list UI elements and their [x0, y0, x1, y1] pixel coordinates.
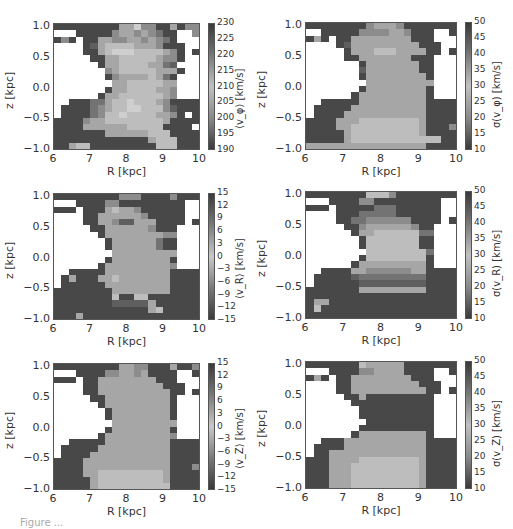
heatmap-panel-vphi_sigma — [305, 22, 457, 150]
colorbar-tick-label: 30 — [474, 250, 485, 259]
heatmap-cell — [306, 312, 314, 318]
heatmap-cell — [374, 143, 382, 149]
heatmap-cell — [83, 313, 90, 319]
heatmap-cell — [434, 312, 442, 318]
heatmap-cell — [170, 313, 177, 319]
x-tick-label: 7 — [78, 493, 102, 504]
colorbar-tick-label: 20 — [474, 452, 485, 461]
colorbar-tick-label: 10 — [474, 484, 485, 493]
colorbar — [208, 363, 215, 490]
colorbar-tick-label: 35 — [474, 404, 485, 413]
colorbar-label: σ(v_R) [km/s] — [491, 230, 502, 297]
heatmap-cell — [177, 143, 184, 149]
x-tick-label: 9 — [151, 493, 175, 504]
x-tick-label: 8 — [114, 323, 138, 334]
x-tick-label: 9 — [151, 323, 175, 334]
heatmap-cell — [366, 482, 374, 488]
colorbar-tick-label: 0 — [217, 422, 223, 431]
heatmap-cell — [127, 483, 134, 489]
heatmap-grid — [306, 23, 456, 149]
x-tick-label: 6 — [293, 492, 317, 503]
heatmap-cell — [141, 313, 148, 319]
y-tick-label: −0.5 — [268, 451, 302, 462]
heatmap-grid — [54, 194, 199, 319]
heatmap-cell — [134, 313, 141, 319]
colorbar-tick-label: 15 — [474, 129, 485, 138]
heatmap-cell — [426, 143, 434, 149]
x-tick-label: 9 — [406, 492, 430, 503]
heatmap-cell — [314, 143, 322, 149]
heatmap-cell — [185, 143, 192, 149]
heatmap-cell — [69, 143, 76, 149]
colorbar-tick-label: 40 — [474, 388, 485, 397]
colorbar-tick-label: 6 — [217, 396, 223, 405]
colorbar-tick-label: 35 — [474, 65, 485, 74]
heatmap-cell — [192, 313, 199, 319]
y-tick-label: 0.5 — [16, 51, 50, 62]
heatmap-cell — [321, 143, 329, 149]
heatmap-cell — [54, 313, 61, 319]
x-tick-label: 10 — [187, 323, 211, 334]
x-tick-label: 9 — [151, 153, 175, 164]
colorbar-tick-label: 220 — [217, 50, 234, 59]
colorbar-tick-label: 30 — [474, 420, 485, 429]
heatmap-cell — [351, 143, 359, 149]
heatmap-cell — [83, 483, 90, 489]
y-axis-label: z [kpc] — [3, 411, 16, 448]
x-tick-label: 7 — [331, 153, 355, 164]
heatmap-cell — [141, 143, 148, 149]
heatmap-cell — [374, 312, 382, 318]
x-axis-label: R [kpc] — [87, 335, 167, 348]
colorbar-tick-label: −9 — [217, 290, 230, 299]
heatmap-cell — [61, 313, 68, 319]
colorbar-tick-label: 30 — [474, 81, 485, 90]
heatmap-grid — [54, 24, 199, 149]
heatmap-cell — [54, 143, 61, 149]
heatmap-cell — [69, 483, 76, 489]
colorbar-tick-label: 40 — [474, 218, 485, 227]
x-tick-label: 10 — [187, 493, 211, 504]
heatmap-cell — [441, 143, 449, 149]
x-axis-label: R [kpc] — [341, 334, 421, 347]
heatmap-cell — [404, 482, 412, 488]
heatmap-cell — [98, 143, 105, 149]
heatmap-cell — [404, 143, 412, 149]
heatmap-cell — [419, 312, 427, 318]
heatmap-cell — [119, 143, 126, 149]
y-tick-label: 0.0 — [16, 252, 50, 263]
heatmap-cell — [419, 482, 427, 488]
heatmap-cell — [426, 482, 434, 488]
y-tick-label: −0.5 — [16, 452, 50, 463]
heatmap-cell — [192, 143, 199, 149]
x-tick-label: 7 — [78, 153, 102, 164]
heatmap-cell — [411, 312, 419, 318]
colorbar-tick-label: 3 — [217, 239, 223, 248]
heatmap-cell — [119, 483, 126, 489]
heatmap-cell — [306, 143, 314, 149]
heatmap-grid — [54, 364, 199, 489]
colorbar-tick-label: 45 — [474, 33, 485, 42]
heatmap-cell — [344, 143, 352, 149]
heatmap-cell — [404, 312, 412, 318]
colorbar-tick-label: 45 — [474, 202, 485, 211]
x-tick-label: 10 — [444, 492, 468, 503]
colorbar-tick-label: 15 — [474, 298, 485, 307]
heatmap-panel-vR_sigma — [305, 191, 457, 319]
x-tick-label: 10 — [187, 153, 211, 164]
x-tick-label: 7 — [331, 492, 355, 503]
colorbar-tick-label: 200 — [217, 113, 234, 122]
heatmap-cell — [419, 143, 427, 149]
heatmap-cell — [396, 312, 404, 318]
heatmap-cell — [329, 143, 337, 149]
colorbar-label: σ(v_φ) [km/s] — [491, 61, 502, 128]
y-tick-label: 1.0 — [268, 358, 302, 369]
x-tick-label: 7 — [331, 322, 355, 333]
heatmap-cell — [381, 312, 389, 318]
heatmap-cell — [351, 312, 359, 318]
heatmap-cell — [389, 143, 397, 149]
heatmap-cell — [366, 312, 374, 318]
y-tick-label: 0.0 — [16, 422, 50, 433]
heatmap-cell — [449, 143, 457, 149]
heatmap-cell — [426, 312, 434, 318]
colorbar-tick-label: −6 — [217, 447, 230, 456]
